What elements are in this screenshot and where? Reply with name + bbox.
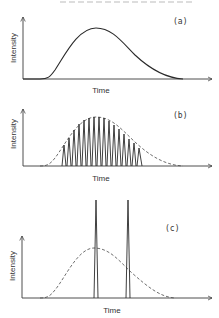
envelope-curve bbox=[40, 117, 183, 166]
spike-train bbox=[62, 117, 142, 166]
y-axis-label: Intensity bbox=[8, 251, 17, 281]
panel-label: (b) bbox=[173, 111, 187, 120]
y-axis-label: Intensity bbox=[9, 33, 18, 63]
panel-label: (a) bbox=[173, 17, 187, 26]
pulse-curve bbox=[23, 28, 183, 79]
y-axis-label: Intensity bbox=[9, 119, 18, 149]
x-axis-label: Time bbox=[103, 306, 121, 315]
figure: Time Intensity (a) Time Intensity (b) Ti… bbox=[0, 0, 219, 318]
panel-c: Time Intensity (c) bbox=[8, 200, 212, 315]
envelope-curve bbox=[40, 248, 175, 298]
panel-b: Time Intensity (b) bbox=[9, 109, 212, 183]
spikes bbox=[94, 200, 130, 298]
panel-label: (c) bbox=[165, 224, 179, 233]
x-axis-label: Time bbox=[92, 174, 110, 183]
x-axis-label: Time bbox=[92, 86, 110, 95]
panel-a: Time Intensity (a) bbox=[9, 17, 212, 95]
